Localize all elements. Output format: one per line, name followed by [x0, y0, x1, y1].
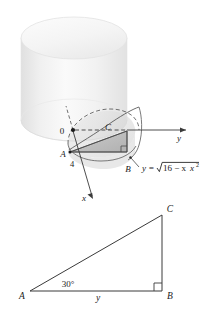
- equation-leader: [129, 156, 139, 167]
- point-a-label-top: A: [59, 149, 66, 159]
- ref-point-a-label: A: [18, 291, 25, 301]
- equation-leader-line: [131, 158, 139, 167]
- axis-x-label: x: [81, 193, 86, 203]
- axis-y-label: y: [176, 133, 181, 143]
- point-b-label-top: B: [125, 164, 131, 174]
- ref-base-label: y: [95, 293, 101, 303]
- origin-point: [71, 128, 75, 132]
- equation-leader-dot: [129, 156, 131, 158]
- axis-y-arrowhead: [180, 127, 186, 132]
- figure-root: 0 A B C 4 y x y = 16 − x x 2 A B C 30° y: [0, 0, 203, 312]
- reference-triangle: [30, 215, 162, 291]
- curve-equation-radicand: 16 − x: [163, 163, 187, 173]
- point-c-label-top: C: [105, 122, 112, 132]
- point-a-dot: [69, 151, 72, 154]
- curve-equation-radicand-var: x: [189, 163, 194, 173]
- radius-label-4: 4: [70, 159, 75, 169]
- axis-x-arrowhead: [88, 193, 94, 199]
- ref-point-b-label: B: [167, 291, 173, 301]
- curve-equation-lhs: y =: [141, 163, 154, 173]
- curve-equation: y = 16 − x x 2: [141, 162, 199, 173]
- cylinder-wedge-figure: 0 A B C 4 y x y = 16 − x x 2 A B C 30° y: [0, 0, 203, 312]
- ref-right-angle-marker: [154, 283, 162, 291]
- curve-equation-exponent: 2: [196, 162, 199, 168]
- ref-angle-label: 30°: [62, 279, 75, 289]
- cylinder-top-ellipse: [21, 17, 127, 59]
- origin-label: 0: [60, 126, 65, 136]
- ref-segment-ac: [30, 215, 162, 291]
- ref-point-c-label: C: [167, 204, 174, 214]
